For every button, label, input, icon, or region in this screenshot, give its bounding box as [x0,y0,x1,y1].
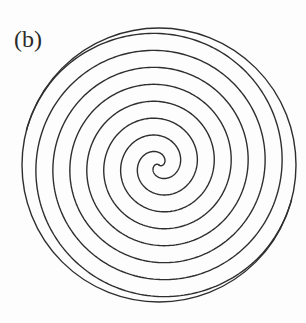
double-spiral-diagram [0,0,306,323]
spiral-arm-b [36,50,292,296]
figure-panel: (b) [0,0,306,323]
spiral-arm-a [27,33,283,279]
